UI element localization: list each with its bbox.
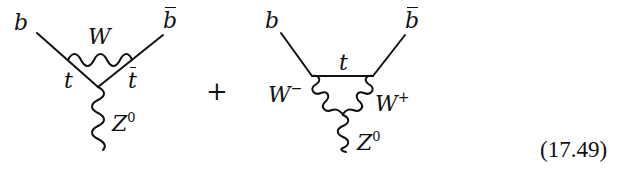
- d2-label-z0: Z0: [357, 132, 381, 154]
- d2-fermion-left: [281, 33, 312, 76]
- plus-operator: +: [206, 78, 228, 104]
- d1-label-b: b: [14, 12, 28, 34]
- d2-z-boson-wiggle: [338, 115, 349, 152]
- d2-label-b: b: [265, 10, 279, 32]
- equation-number: (17.49): [540, 138, 607, 161]
- d1-label-tbar: t: [128, 70, 137, 92]
- d2-label-w-minus: W−: [268, 84, 302, 106]
- d1-label-t: t: [64, 70, 73, 92]
- d1-label-bbar: b: [163, 10, 177, 32]
- d2-label-w-plus: W+: [375, 93, 409, 115]
- d2-label-t: t: [339, 52, 348, 74]
- d2-fermion-right: [373, 35, 405, 76]
- d2-w-plus-wiggle: [343, 76, 373, 115]
- d1-w-boson-wiggle: [68, 54, 132, 66]
- d1-z-boson-wiggle: [92, 87, 105, 150]
- d2-w-minus-wiggle: [312, 76, 343, 115]
- d1-label-w: W: [88, 26, 111, 48]
- d1-label-z0: Z0: [112, 113, 136, 135]
- d2-label-bbar: b: [405, 10, 419, 32]
